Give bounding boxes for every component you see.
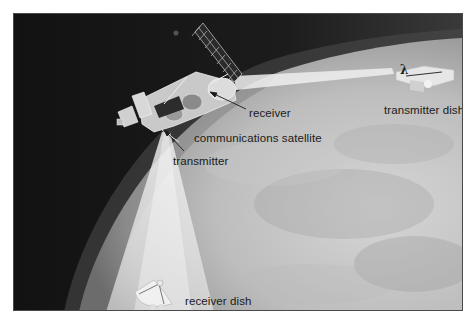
label-transmitter-dish: transmitter dish [384, 105, 463, 117]
label-receiver-dish: receiver dish [185, 296, 252, 308]
wavelength-symbol: λ [400, 64, 409, 76]
label-transmitter: transmitter [173, 156, 228, 168]
label-receiver: receiver [249, 108, 291, 120]
satellite-scene [14, 14, 463, 311]
diagram-frame: λ receiver communications satellite tran… [13, 13, 463, 311]
label-communications-satellite: communications satellite [194, 133, 322, 145]
